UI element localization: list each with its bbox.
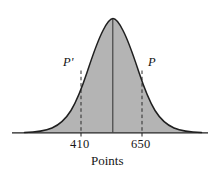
x-axis-tick-label-650: 650: [131, 138, 150, 151]
x-axis-tick-label-410: 410: [70, 138, 89, 151]
annotation-label-p-prime: P': [63, 56, 73, 69]
distribution-plot-svg: [0, 0, 221, 173]
x-axis-title: Points: [91, 154, 124, 167]
normal-distribution-figure: P' P 410 650 Points: [0, 0, 221, 173]
annotation-label-p: P: [148, 56, 156, 69]
